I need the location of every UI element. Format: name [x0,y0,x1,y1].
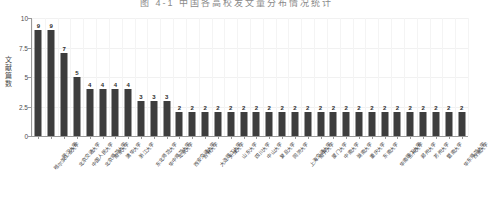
x-tick-mark [141,136,142,139]
bar[interactable] [355,112,362,136]
bar[interactable] [240,112,247,136]
bar[interactable] [176,112,183,136]
bar[interactable] [368,112,375,136]
bar[interactable] [279,112,286,136]
bar-slot: 7 [58,18,71,136]
x-tick-mark [410,136,411,139]
bar[interactable] [291,112,298,136]
x-tick-mark [154,136,155,139]
bar-value-label: 2 [421,105,424,111]
x-tick-mark [359,136,360,139]
bar[interactable] [112,89,119,136]
x-tick-mark [346,136,347,139]
bar-value-label: 5 [75,70,78,76]
bar-value-label: 2 [332,105,335,111]
bar-slot: 3 [135,18,148,136]
bar[interactable] [432,112,439,136]
bar[interactable] [202,112,209,136]
x-tick-mark [167,136,168,139]
bar-value-label: 2 [178,105,181,111]
bar[interactable] [420,112,427,136]
bar-value-label: 7 [62,46,65,52]
bar-value-label: 2 [357,105,360,111]
bar-slot: 2 [199,18,212,136]
x-tick-mark [256,136,257,139]
bar[interactable] [86,89,93,136]
bar[interactable] [137,101,144,136]
y-tick-label: 10 [21,15,28,22]
bar-value-label: 4 [126,82,129,88]
bar[interactable] [227,112,234,136]
bar[interactable] [458,112,465,136]
bar[interactable] [150,101,157,136]
bar[interactable] [304,112,311,136]
bar-value-label: 3 [139,94,142,100]
bar-slot: 9 [32,18,45,136]
x-tick-mark [423,136,424,139]
x-tick-mark [128,136,129,139]
bar[interactable] [73,77,80,136]
bar-slot: 2 [442,18,455,136]
x-tick-mark [244,136,245,139]
x-tick-mark [372,136,373,139]
x-tick-mark [103,136,104,139]
x-tick-mark [64,136,65,139]
bar[interactable] [253,112,260,136]
x-tick-mark [77,136,78,139]
bar-value-label: 2 [447,105,450,111]
bar[interactable] [214,112,221,136]
bar-value-label: 2 [216,105,219,111]
bar-value-label: 2 [191,105,194,111]
bar-slot: 2 [186,18,199,136]
bar-value-label: 2 [229,105,232,111]
bar-slot: 4 [122,18,135,136]
bar-value-label: 2 [306,105,309,111]
x-tick-mark [218,136,219,139]
bar[interactable] [317,112,324,136]
bar[interactable] [99,89,106,136]
bar-slot: 2 [224,18,237,136]
bar[interactable] [125,89,132,136]
bar[interactable] [163,101,170,136]
bar-value-label: 2 [396,105,399,111]
bar[interactable] [189,112,196,136]
bar[interactable] [266,112,273,136]
bar-value-label: 4 [88,82,91,88]
bar[interactable] [381,112,388,136]
bar[interactable] [48,30,55,136]
bar[interactable] [343,112,350,136]
bar[interactable] [445,112,452,136]
x-tick-mark [38,136,39,139]
x-tick-mark [90,136,91,139]
bar-slot: 2 [173,18,186,136]
bar-value-label: 2 [383,105,386,111]
bar-slot: 2 [263,18,276,136]
x-tick-mark [269,136,270,139]
bar[interactable] [394,112,401,136]
bar-value-label: 2 [242,105,245,111]
x-tick-mark [436,136,437,139]
bar[interactable] [407,112,414,136]
bar-slot: 3 [147,18,160,136]
x-tick-mark [51,136,52,139]
bar-value-label: 9 [37,23,40,29]
bar[interactable] [61,53,68,136]
bar-slot: 2 [417,18,430,136]
x-tick-mark [179,136,180,139]
bar-value-label: 2 [434,105,437,111]
page-title: 图 4-1 中国各高校发文量分布情况统计 [0,0,473,8]
bar-value-label: 3 [165,94,168,100]
bar-slot: 2 [288,18,301,136]
bar[interactable] [35,30,42,136]
x-tick-mark [282,136,283,139]
bar-value-label: 2 [203,105,206,111]
bar-value-label: 2 [319,105,322,111]
bar[interactable] [330,112,337,136]
y-tick-label: 2.5 [19,103,28,110]
bar-slot: 2 [391,18,404,136]
bar-slot: 2 [301,18,314,136]
bar-value-label: 2 [344,105,347,111]
bar-slot: 5 [70,18,83,136]
bar-slot: 2 [404,18,417,136]
